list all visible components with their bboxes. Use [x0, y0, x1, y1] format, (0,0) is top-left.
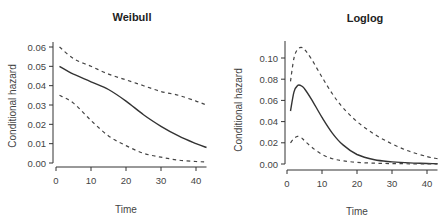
y-tick-label: 0.03	[28, 100, 47, 111]
y-tick-label: 0.02	[28, 119, 47, 130]
confidence-band-line	[60, 95, 207, 162]
y-tick-label: 0.04	[260, 116, 279, 127]
x-tick-label: 20	[352, 178, 363, 189]
loglog-y-axis-label: Conditional hazard	[233, 68, 244, 151]
weibull-plot-area	[60, 47, 207, 162]
weibull-x-axis-label: Time	[115, 204, 137, 215]
loglog-panel: Loglog Conditional hazard Time 0.000.020…	[233, 12, 438, 217]
confidence-band-line	[60, 47, 207, 105]
y-tick-label: 0.10	[260, 53, 279, 64]
y-tick-label: 0.01	[28, 138, 47, 149]
x-tick-label: 30	[387, 178, 398, 189]
weibull-title: Weibull	[113, 11, 152, 23]
y-tick-label: 0.04	[28, 80, 47, 91]
x-tick-label: 30	[156, 175, 167, 186]
x-tick-label: 0	[53, 175, 58, 186]
loglog-plot-area	[291, 47, 438, 163]
y-tick-label: 0.08	[260, 74, 279, 85]
y-tick-label: 0.05	[28, 61, 47, 72]
estimate-line	[291, 85, 438, 164]
y-tick-label: 0.02	[260, 137, 279, 148]
weibull-panel: Weibull Conditional hazard Time 0.000.01…	[7, 11, 207, 215]
weibull-y-axis-label: Conditional hazard	[7, 64, 18, 147]
confidence-band-line	[291, 136, 438, 164]
y-tick-label: 0.06	[28, 42, 47, 53]
x-tick-label: 10	[86, 175, 97, 186]
y-tick-label: 0.06	[260, 95, 279, 106]
y-tick-label: 0.00	[28, 158, 47, 169]
weibull-x-axis: 010203040	[53, 167, 206, 186]
weibull-y-axis: 0.000.010.020.030.040.050.06	[28, 42, 54, 169]
estimate-line	[60, 66, 207, 147]
y-tick-label: 0.00	[260, 159, 279, 170]
loglog-title: Loglog	[347, 12, 384, 24]
x-tick-label: 20	[121, 175, 132, 186]
confidence-band-line	[291, 47, 438, 158]
loglog-y-axis: 0.000.020.040.060.080.10	[260, 41, 286, 170]
x-tick-label: 40	[191, 175, 202, 186]
figure: Weibull Conditional hazard Time 0.000.01…	[0, 0, 448, 221]
x-tick-label: 0	[284, 178, 289, 189]
loglog-x-axis-label: Time	[346, 206, 368, 217]
loglog-x-axis: 010203040	[284, 170, 437, 189]
x-tick-label: 10	[317, 178, 328, 189]
x-tick-label: 40	[422, 178, 433, 189]
